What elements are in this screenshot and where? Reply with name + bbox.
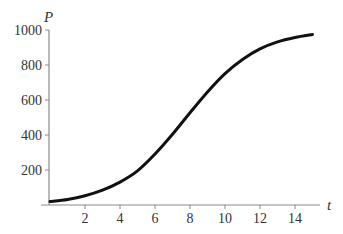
- y-axis: 2004006008001000 P: [14, 9, 53, 205]
- x-tick-label: 4: [117, 211, 124, 226]
- x-axis: 2468101214 t: [41, 197, 332, 226]
- y-ticks: 2004006008001000: [14, 23, 49, 178]
- x-tick-label: 2: [82, 211, 89, 226]
- y-tick-label: 600: [21, 93, 42, 108]
- x-tick-label: 14: [288, 211, 302, 226]
- x-tick-label: 6: [152, 211, 159, 226]
- y-axis-label: P: [43, 9, 53, 25]
- y-tick-label: 200: [21, 163, 42, 178]
- x-tick-label: 8: [187, 211, 194, 226]
- y-tick-label: 800: [21, 58, 42, 73]
- y-tick-label: 1000: [14, 23, 42, 38]
- x-ticks: 2468101214: [82, 205, 303, 226]
- logistic-curve: [50, 35, 313, 202]
- x-tick-label: 10: [218, 211, 232, 226]
- x-tick-label: 12: [253, 211, 267, 226]
- x-axis-label: t: [327, 197, 332, 213]
- logistic-chart: 2004006008001000 P 2468101214 t: [0, 0, 343, 234]
- y-tick-label: 400: [21, 128, 42, 143]
